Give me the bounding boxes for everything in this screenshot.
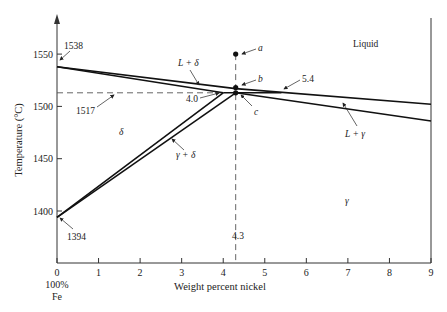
region-liquid: Liquid — [353, 39, 379, 49]
x-tick-label: 6 — [304, 267, 309, 278]
x-origin-sublabel-2: Fe — [52, 291, 63, 302]
label-1517: 1517 — [76, 106, 95, 116]
arrow-a — [242, 49, 256, 54]
phase-boundary-line — [57, 67, 431, 105]
arrow-gamma-delta — [172, 139, 184, 150]
point-label-c: c — [254, 107, 259, 117]
x-tick-label: 7 — [345, 267, 350, 278]
label-4-3: 4.3 — [232, 231, 244, 241]
x-tick-label: 5 — [262, 267, 267, 278]
x-tick-label: 2 — [138, 267, 143, 278]
x-axis-title: Weight percent nickel — [174, 281, 266, 292]
arrow-1394 — [60, 218, 73, 229]
region-delta: δ — [119, 127, 124, 137]
region-gamma-delta: γ + δ — [176, 150, 196, 160]
x-tick-label: 3 — [179, 267, 184, 278]
point-c — [233, 90, 238, 95]
label-1394: 1394 — [67, 232, 86, 242]
label-4-0: 4.0 — [186, 94, 198, 104]
point-a — [233, 52, 238, 57]
point-b — [233, 85, 238, 90]
arrow-b — [242, 80, 256, 85]
arrow-c — [241, 95, 252, 106]
x-origin-sublabel-1: 100% — [45, 279, 68, 290]
fe-ni-phase-diagram: 0123456789 1400145015001550 Weight perce… — [0, 0, 447, 312]
arrow-1517 — [97, 95, 114, 107]
y-tick-label: 1550 — [33, 49, 53, 60]
point-label-b: b — [258, 74, 263, 84]
arrow-l-gamma — [343, 103, 357, 126]
x-tick-label: 8 — [387, 267, 392, 278]
point-label-a: a — [258, 43, 263, 53]
y-tick-label: 1500 — [33, 101, 53, 112]
label-1538: 1538 — [64, 41, 83, 51]
label-5-4: 5.4 — [302, 74, 314, 84]
region-l-gamma: L + γ — [344, 129, 365, 139]
y-tick-label: 1450 — [33, 153, 53, 164]
phase-boundary-line — [57, 67, 223, 93]
y-axis-title: Temperature (°C) — [13, 103, 25, 177]
arrow-5-4 — [284, 80, 300, 89]
x-tick-label: 9 — [429, 267, 434, 278]
region-gamma: γ — [345, 196, 349, 206]
x-tick-label: 1 — [96, 267, 101, 278]
y-tick-label: 1400 — [33, 206, 53, 217]
y-axis-arrow-icon — [54, 14, 60, 24]
arrow-1538 — [60, 51, 70, 60]
region-l-delta: L + δ — [177, 58, 199, 68]
x-tick-label: 0 — [55, 267, 60, 278]
x-tick-label: 4 — [221, 267, 226, 278]
